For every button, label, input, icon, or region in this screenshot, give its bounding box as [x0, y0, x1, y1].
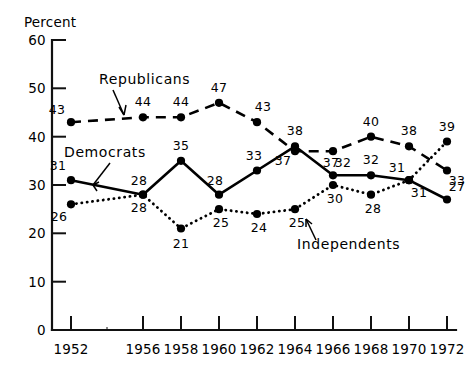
data-point [67, 118, 75, 126]
data-point [139, 113, 147, 121]
data-point [67, 176, 75, 184]
data-value-label: 35 [173, 138, 189, 153]
data-point [329, 181, 337, 189]
y-tick-label-30: 30 [28, 177, 46, 193]
data-point [367, 133, 375, 141]
data-value-label: 25 [213, 215, 229, 230]
y-tick-label-60: 60 [28, 32, 46, 48]
x-axis-ticks: 1952 1956 1958 1960 1962 1964 1966 1968 … [53, 316, 464, 357]
data-point [291, 142, 299, 150]
data-point [215, 205, 223, 213]
data-value-label: 44 [173, 94, 189, 109]
x-tick-label-1958: 1958 [163, 341, 198, 357]
data-point [67, 200, 75, 208]
data-point [215, 191, 223, 199]
data-point [253, 118, 261, 126]
data-point [253, 210, 261, 218]
data-value-label: 40 [363, 114, 379, 129]
y-tick-label-40: 40 [28, 129, 46, 145]
data-point [443, 195, 451, 203]
data-point [405, 142, 413, 150]
data-value-label: 31 [411, 185, 427, 200]
data-point [177, 157, 185, 165]
data-value-label: 47 [211, 80, 227, 95]
data-value-label: 28 [131, 173, 147, 188]
democrats-label: Democrats [64, 144, 146, 160]
data-value-label: 31 [50, 158, 66, 173]
data-point [177, 224, 185, 232]
y-tick-label-10: 10 [28, 274, 46, 290]
data-value-label: 26 [51, 209, 67, 224]
data-point [405, 176, 413, 184]
data-value-label: 21 [173, 236, 189, 251]
data-value-label: 27 [449, 179, 465, 194]
data-value-label: 39 [439, 119, 455, 134]
data-value-label: 28 [207, 173, 223, 188]
x-tick-label-1966: 1966 [315, 341, 350, 357]
data-point [443, 137, 451, 145]
republicans-label: Republicans [99, 71, 190, 87]
chart-container: Percent 60 50 40 30 20 10 0 1952 [0, 0, 474, 382]
y-tick-label-0: 0 [37, 322, 46, 338]
data-value-label: 38 [287, 123, 303, 138]
data-point [367, 171, 375, 179]
data-value-label: 38 [401, 123, 417, 138]
data-value-label: 28 [365, 201, 381, 216]
x-tick-label-1960: 1960 [201, 341, 236, 357]
data-value-label: 43 [255, 99, 271, 114]
data-value-label: 43 [49, 102, 65, 117]
data-value-label: 24 [251, 220, 267, 235]
y-axis-ticks: 60 50 40 30 20 10 0 [28, 32, 66, 338]
data-value-label: 37 [275, 153, 291, 168]
x-tick-label-1962: 1962 [239, 341, 274, 357]
x-tick-label-1964: 1964 [277, 341, 312, 357]
data-value-label: 32 [363, 152, 379, 167]
independents-label: Independents [297, 236, 400, 252]
data-point [367, 191, 375, 199]
data-point [329, 171, 337, 179]
y-tick-label-50: 50 [28, 80, 46, 96]
data-point [177, 113, 185, 121]
x-tick-label-1968: 1968 [353, 341, 388, 357]
data-point [215, 99, 223, 107]
x-tick-label-1970: 1970 [391, 341, 426, 357]
percent-party-identification-line-chart: Percent 60 50 40 30 20 10 0 1952 [0, 0, 474, 382]
data-point [329, 147, 337, 155]
annotation-independents: Independents [297, 219, 400, 252]
data-value-label: 31 [389, 160, 405, 175]
x-tick-label-1952: 1952 [53, 341, 88, 357]
x-tick-label-1972: 1972 [429, 341, 464, 357]
data-value-labels: 4344444743373740383331283528333832323127… [49, 80, 465, 251]
data-point [139, 191, 147, 199]
data-value-label: 44 [135, 94, 151, 109]
data-point [291, 205, 299, 213]
y-tick-label-20: 20 [28, 225, 46, 241]
x-tick-label-1956: 1956 [125, 341, 160, 357]
y-axis-title: Percent [24, 14, 76, 30]
data-point [253, 166, 261, 174]
data-value-label: 33 [246, 148, 262, 163]
data-value-label: 28 [131, 200, 147, 215]
data-value-label: 32 [335, 155, 351, 170]
data-value-label: 25 [289, 215, 305, 230]
data-value-label: 30 [327, 191, 343, 206]
